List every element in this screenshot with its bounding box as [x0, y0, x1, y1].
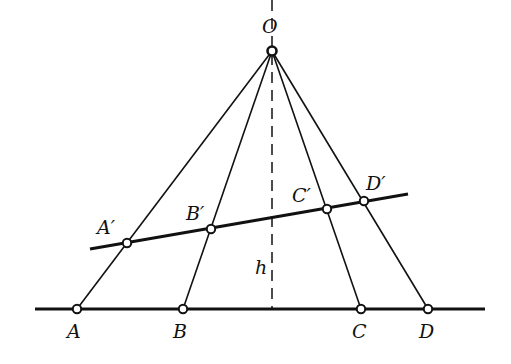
geometry-figure: [0, 0, 511, 364]
ray-O-C: [272, 51, 361, 309]
label-h: h: [255, 258, 267, 277]
ray-O-D: [272, 51, 428, 309]
label-C: C: [352, 322, 367, 341]
point-C: [357, 305, 365, 313]
label-C-prime: C′: [292, 186, 311, 205]
label-B: B: [173, 322, 187, 341]
label-B-prime: B′: [186, 204, 204, 223]
point-B-prime: [207, 225, 215, 233]
point-C-prime: [323, 205, 331, 213]
label-A: A: [67, 322, 81, 341]
diagram-canvas: O A′ B′ C′ D′ h A B C D: [0, 0, 511, 364]
point-A: [73, 305, 81, 313]
label-D: D: [419, 322, 434, 341]
label-D-prime: D′: [366, 174, 386, 193]
point-B: [179, 305, 187, 313]
label-A-prime: A′: [97, 218, 115, 237]
point-D-prime: [360, 197, 368, 205]
point-A-prime: [123, 239, 131, 247]
point-O: [268, 47, 277, 56]
ray-O-A: [77, 51, 272, 309]
label-O: O: [262, 17, 278, 36]
point-D: [424, 305, 432, 313]
